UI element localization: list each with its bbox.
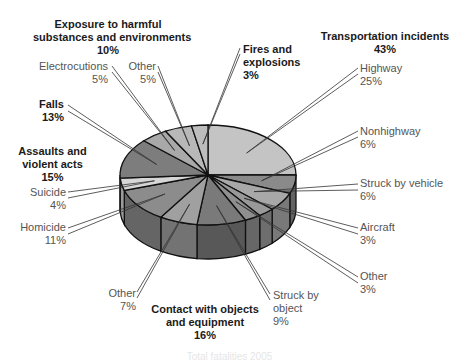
label-pct: 43%	[315, 43, 455, 56]
label-pct: 6%	[360, 138, 421, 151]
label-transport: Transportation incidents 43%	[315, 30, 455, 56]
caption: Total fatalities 2005	[0, 351, 459, 362]
label-exposure: Exposure to harmful substances and envir…	[33, 18, 183, 57]
pie-slice	[208, 125, 296, 175]
label-text: Nonhighway	[360, 125, 421, 138]
label-aircraft: Aircraft 3%	[360, 221, 395, 247]
pie-side-wall	[245, 215, 259, 254]
label-transport-other: Other 3%	[360, 270, 388, 296]
label-struck-by-vehicle: Struck by vehicle 6%	[360, 177, 443, 203]
label-text: object	[273, 302, 319, 315]
label-contact-other: Other 7%	[100, 287, 136, 313]
label-pct: 16%	[140, 329, 270, 342]
label-text: Exposure to harmful	[33, 18, 183, 31]
label-highway: Highway 25%	[360, 62, 402, 88]
label-electrocutions: Electrocutions 5%	[30, 60, 108, 86]
label-nonhighway: Nonhighway 6%	[360, 125, 421, 151]
label-pct: 5%	[30, 73, 108, 86]
label-pct: 4%	[20, 199, 66, 212]
label-pct: 3%	[243, 69, 300, 82]
label-contact: Contact with objects and equipment 16%	[140, 303, 270, 342]
label-pct: 6%	[360, 190, 443, 203]
label-text: Other	[100, 287, 136, 300]
label-text: Homicide	[10, 221, 66, 234]
label-pct: 15%	[5, 171, 100, 184]
pie-side-wall	[197, 220, 245, 259]
label-text: Contact with objects	[140, 303, 270, 316]
label-text: explosions	[243, 56, 300, 69]
label-pct: 25%	[360, 75, 402, 88]
label-text: and equipment	[140, 316, 270, 329]
label-pct: 9%	[273, 315, 319, 328]
leader-line	[247, 74, 358, 153]
label-text: Struck by	[273, 289, 319, 302]
label-pct: 13%	[20, 111, 64, 124]
label-suicide: Suicide 4%	[20, 186, 66, 212]
label-text: Assaults and	[5, 145, 100, 158]
label-text: Other	[360, 270, 388, 283]
label-text: Falls	[20, 98, 64, 111]
label-pct: 5%	[120, 73, 156, 86]
label-pct: 7%	[100, 300, 136, 313]
label-text: Other	[120, 60, 156, 73]
label-text: Aircraft	[360, 221, 395, 234]
label-text: Fires and	[243, 43, 300, 56]
label-text: Struck by vehicle	[360, 177, 443, 190]
label-pct: 3%	[360, 283, 388, 296]
label-text: Suicide	[20, 186, 66, 199]
label-text: Transportation incidents	[315, 30, 455, 43]
label-homicide: Homicide 11%	[10, 221, 66, 247]
label-text: Electrocutions	[30, 60, 108, 73]
label-fires: Fires and explosions 3%	[243, 43, 300, 82]
label-falls: Falls 13%	[20, 98, 64, 124]
label-text: Highway	[360, 62, 402, 75]
label-pct: 11%	[10, 234, 66, 247]
label-text: substances and environments	[33, 31, 183, 44]
label-exposure-other: Other 5%	[120, 60, 156, 86]
label-pct: 3%	[360, 234, 395, 247]
label-assaults: Assaults and violent acts 15%	[5, 145, 100, 184]
label-text: violent acts	[5, 158, 100, 171]
label-pct: 10%	[33, 44, 183, 57]
label-struck-by-object: Struck by object 9%	[273, 289, 319, 328]
